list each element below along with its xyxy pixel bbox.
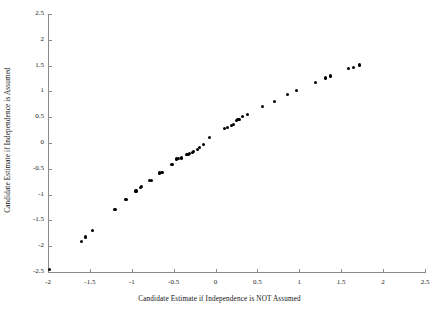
data-point (329, 74, 332, 77)
data-point (314, 81, 317, 84)
x-axis-title: Candidate Estimate if Independence is NO… (0, 295, 439, 303)
data-point (347, 67, 350, 70)
plot-data-area (0, 0, 439, 316)
data-point (124, 198, 127, 201)
data-point (226, 126, 229, 129)
data-point (202, 143, 205, 146)
data-point (208, 136, 211, 139)
data-point (232, 123, 235, 126)
data-point (170, 163, 173, 166)
data-point (84, 235, 87, 238)
y-axis-title-wrapper: Candidate Estimate if Independence is As… (0, 0, 16, 280)
data-point (150, 179, 153, 182)
data-point (352, 66, 355, 69)
data-point (324, 76, 327, 79)
data-point (140, 185, 143, 188)
data-point (295, 89, 298, 92)
data-point (261, 105, 264, 108)
data-point (198, 146, 201, 149)
data-point (91, 229, 94, 232)
data-point (237, 118, 240, 121)
data-point (48, 268, 51, 271)
scatter-plot-figure: -2.5-2-1.5-1-0.500.511.522.5 -2-1.5-1-0.… (0, 0, 439, 316)
data-point (80, 240, 83, 243)
data-point (273, 100, 276, 103)
data-point (134, 189, 137, 192)
data-point (180, 156, 183, 159)
data-point (241, 115, 244, 118)
data-point (358, 63, 361, 66)
data-point (160, 171, 163, 174)
data-point (286, 93, 289, 96)
data-point (192, 150, 195, 153)
data-point (113, 208, 116, 211)
data-point (246, 113, 249, 116)
y-axis-title: Candidate Estimate if Independence is As… (4, 67, 12, 212)
